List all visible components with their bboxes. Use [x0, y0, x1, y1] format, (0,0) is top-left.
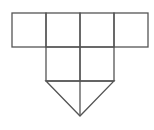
middle-squares [46, 47, 114, 81]
top-square-2 [46, 13, 80, 47]
middle-square-1 [46, 47, 80, 81]
bottom-triangle [46, 81, 114, 116]
middle-square-2 [80, 47, 114, 81]
net-diagram [0, 0, 154, 130]
top-square-4 [114, 13, 148, 47]
top-square-1 [12, 13, 46, 47]
top-square-3 [80, 13, 114, 47]
top-row-squares [12, 13, 148, 47]
